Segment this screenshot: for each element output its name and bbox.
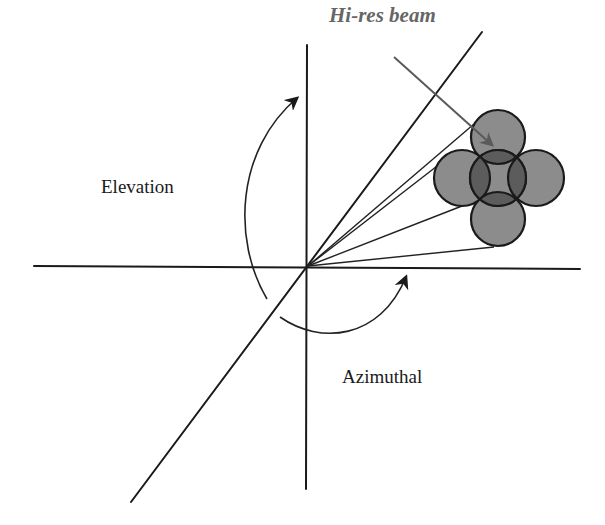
hi-res-beam-cluster: [434, 110, 564, 246]
hires-beam-label: Hi-res beam: [328, 3, 436, 27]
elevation-arrow: [245, 98, 297, 299]
beam-diagram: Hi-res beam Elevation Azimuthal: [0, 0, 605, 525]
elevation-label: Elevation: [101, 176, 174, 197]
azimuthal-arrow: [280, 277, 406, 333]
azimuthal-label: Azimuthal: [342, 366, 422, 387]
